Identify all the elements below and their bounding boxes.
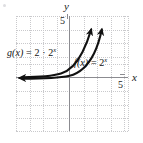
function-eq-g: = 2 · 2 (24, 47, 54, 58)
function-exponent-g: x (53, 46, 56, 53)
function-label-f: f(x) = 2x (74, 58, 107, 68)
function-eq-f: = 2 (88, 57, 104, 68)
function-arg-f: (x) (77, 57, 88, 68)
curve-layer (0, 0, 143, 143)
function-exponent-f: x (104, 56, 107, 63)
exponential-function-graph: y x 5 5 g(x) = 2 · 2x f(x) = 2x (0, 0, 143, 143)
function-arg-g: (x) (12, 47, 23, 58)
function-label-g: g(x) = 2 · 2x (7, 48, 56, 58)
